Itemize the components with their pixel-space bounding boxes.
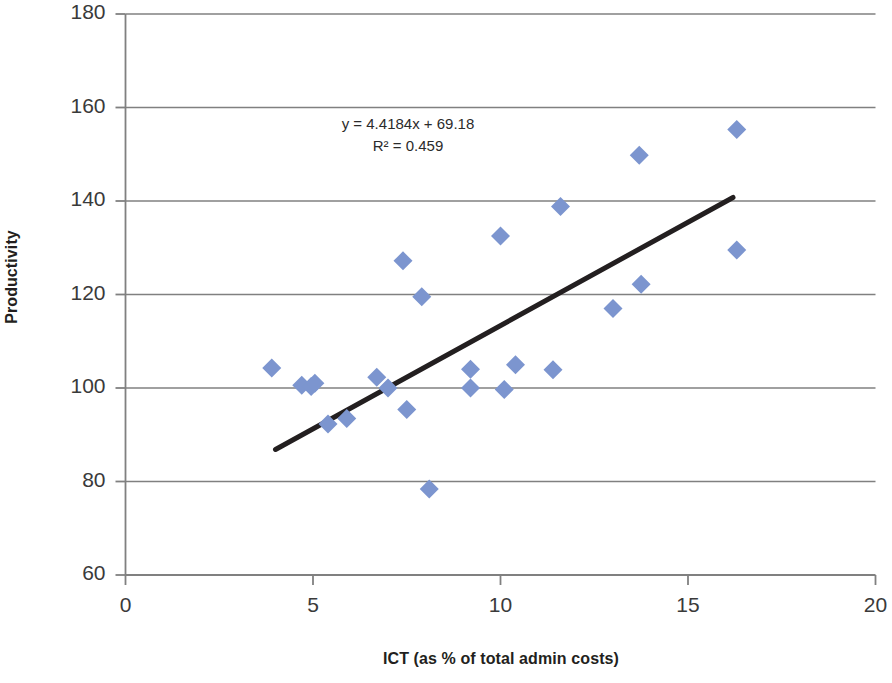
x-tick-label-5: 5: [283, 593, 343, 617]
data-point-18: [551, 197, 570, 216]
y-tick-label-140: 140: [44, 187, 106, 211]
data-point-19: [604, 299, 623, 318]
data-point-13: [461, 379, 480, 398]
data-point-21: [632, 275, 651, 294]
x-tick-label-20: 20: [846, 593, 892, 617]
trendline-annotation: y = 4.4184x + 69.18 R² = 0.459: [258, 113, 558, 157]
y-tick-label-180: 180: [44, 0, 106, 24]
data-point-17: [544, 360, 563, 379]
data-point-20: [630, 146, 649, 165]
data-points: [262, 120, 746, 499]
axis-ticks: [116, 14, 876, 585]
y-axis-title: Productivity: [3, 217, 21, 337]
x-tick-label-10: 10: [471, 593, 531, 617]
data-point-22: [727, 120, 746, 139]
x-tick-label-15: 15: [658, 593, 718, 617]
y-tick-label-60: 60: [44, 561, 106, 585]
x-tick-label-0: 0: [96, 593, 156, 617]
y-tick-label-120: 120: [44, 281, 106, 305]
data-point-11: [420, 479, 439, 498]
data-point-16: [506, 355, 525, 374]
plot-area: [0, 0, 892, 683]
trendline-equation: y = 4.4184x + 69.18: [258, 113, 558, 135]
data-point-8: [394, 251, 413, 270]
data-point-12: [461, 360, 480, 379]
scatter-chart: Productivity ICT (as % of total admin co…: [0, 0, 892, 683]
y-tick-label-100: 100: [44, 374, 106, 398]
r-squared-label: R² = 0.459: [258, 135, 558, 157]
data-point-15: [495, 380, 514, 399]
data-point-23: [727, 241, 746, 260]
data-point-10: [412, 287, 431, 306]
data-point-14: [491, 227, 510, 246]
data-point-9: [397, 400, 416, 419]
y-tick-label-160: 160: [44, 94, 106, 118]
x-axis-title: ICT (as % of total admin costs): [126, 650, 876, 668]
data-point-0: [262, 358, 281, 377]
y-tick-label-80: 80: [44, 468, 106, 492]
gridlines: [126, 14, 876, 482]
